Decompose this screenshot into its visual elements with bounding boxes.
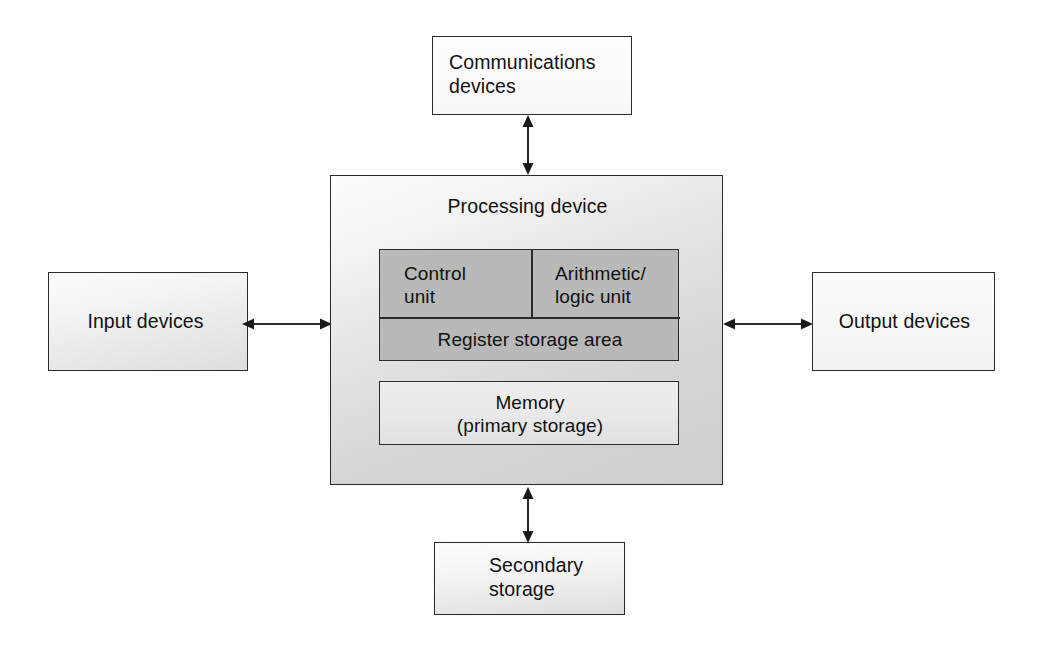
communications-devices-label: Communications devices (449, 51, 629, 99)
arrow-processing-output (722, 309, 814, 339)
arrow-processing-secondary (512, 486, 544, 544)
memory-box: Memory (primary storage) (379, 381, 679, 445)
secondary-storage-box: Secondary storage (434, 542, 625, 615)
arithmetic-logic-unit-cell: Arithmetic/ logic unit (532, 250, 680, 318)
arrow-input-processing (241, 309, 333, 339)
output-devices-label: Output devices (813, 310, 996, 334)
register-storage-area-cell: Register storage area (380, 318, 680, 362)
arrow-communications-processing (512, 114, 544, 176)
communications-devices-box: Communications devices (432, 36, 632, 115)
control-unit-label: Control unit (404, 262, 534, 308)
control-unit-cell: Control unit (380, 250, 532, 318)
arithmetic-logic-unit-label: Arithmetic/ logic unit (555, 262, 685, 308)
processing-device-label: Processing device (331, 195, 724, 219)
secondary-storage-label: Secondary storage (489, 554, 629, 602)
register-storage-area-label: Register storage area (380, 328, 680, 351)
processing-device-box: Processing device Control unit Arithmeti… (330, 175, 723, 485)
memory-label: Memory (primary storage) (380, 391, 680, 437)
cpu-block: Control unit Arithmetic/ logic unit Regi… (379, 249, 679, 361)
input-devices-label: Input devices (49, 310, 242, 334)
cpu-vertical-divider (531, 250, 533, 318)
input-devices-box: Input devices (48, 272, 248, 371)
output-devices-box: Output devices (812, 272, 995, 371)
diagram-canvas: Communications devices Input devices Pro… (0, 0, 1042, 661)
